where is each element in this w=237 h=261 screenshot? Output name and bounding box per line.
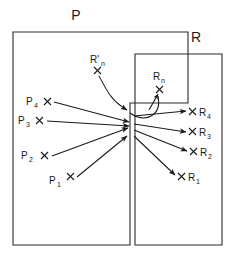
point-label-p1-sub: 1 xyxy=(57,181,61,188)
point-marker-p1 xyxy=(67,173,74,180)
arrow-neck-to-r1 xyxy=(134,136,175,175)
point-label-r2: R 2 xyxy=(200,147,212,160)
point-marker-r2 xyxy=(190,148,197,155)
point-marker-p2 xyxy=(41,152,48,159)
point-label-p2-base: P xyxy=(21,150,28,161)
set-label-r: R xyxy=(191,29,201,45)
point-label-r3-sub: 3 xyxy=(207,133,211,140)
point-label-r2-sub: 2 xyxy=(208,153,212,160)
point-label-p2-sub: 2 xyxy=(29,156,33,163)
point-label-r3: R 3 xyxy=(199,127,211,140)
point-marker-rn xyxy=(156,86,163,93)
arrow-p3-to-neck xyxy=(47,121,129,126)
point-label-p3: P 3 xyxy=(18,115,30,128)
point-label-r3-base: R xyxy=(199,127,206,138)
point-marker-r3 xyxy=(189,128,196,135)
arrow-neck-to-r3 xyxy=(134,124,186,132)
point-label-p3-sub: 3 xyxy=(26,121,30,128)
point-label-p1-base: P xyxy=(49,175,56,186)
point-marker-rprime-n xyxy=(94,67,101,74)
diagram-canvas: P R xyxy=(0,0,237,261)
set-label-p: P xyxy=(71,7,80,23)
point-label-rn-sub: n xyxy=(161,77,165,84)
point-label-p3-base: P xyxy=(18,115,25,126)
set-mapping-diagram: P R xyxy=(0,0,237,261)
point-label-r1-sub: 1 xyxy=(196,178,200,185)
arrow-p4-to-neck xyxy=(54,102,129,122)
arrow-neck-to-r4 xyxy=(134,111,186,116)
point-label-rn: R n xyxy=(153,71,165,84)
arrow-p1-to-neck xyxy=(77,136,127,177)
point-label-rprime-n-base: R' xyxy=(90,54,99,65)
point-marker-r4 xyxy=(189,108,196,115)
point-label-r4: R 4 xyxy=(199,107,211,120)
point-label-p2: P 2 xyxy=(21,150,33,163)
arrow-neck-to-r2 xyxy=(134,130,187,151)
arrow-p2-to-neck xyxy=(52,128,128,156)
point-label-r4-base: R xyxy=(199,107,206,118)
point-label-r4-sub: 4 xyxy=(207,113,211,120)
point-label-rn-base: R xyxy=(153,71,160,82)
point-label-rprime-n-sub: n xyxy=(101,60,105,67)
point-label-p4-base: P xyxy=(26,96,33,107)
point-label-r1: R 1 xyxy=(188,172,200,185)
point-label-p4: P 4 xyxy=(26,96,38,109)
point-label-p4-sub: 4 xyxy=(34,102,38,109)
point-label-rprime-n: R' n xyxy=(90,54,105,67)
point-label-p1: P 1 xyxy=(49,175,61,188)
point-label-r1-base: R xyxy=(188,172,195,183)
curve-rprime-n-to-neck xyxy=(99,76,127,110)
point-label-r2-base: R xyxy=(200,147,207,158)
point-marker-p4 xyxy=(44,98,51,105)
point-marker-p3 xyxy=(36,117,43,124)
arrow-neck-to-rn xyxy=(149,94,158,110)
point-marker-r1 xyxy=(178,173,185,180)
